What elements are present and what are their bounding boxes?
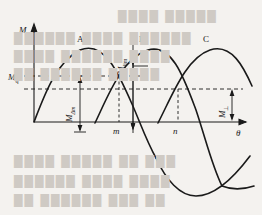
curve-b-lower-lobe [222, 186, 254, 189]
label-mperp: M⊥ [217, 106, 229, 120]
label-mperp-sub: ⊥ [223, 106, 229, 111]
y-axis-arrowhead [31, 24, 37, 32]
axis-marker-m: m [113, 126, 120, 136]
m-delta-m-arrowhead-down [78, 125, 83, 132]
bleed-text-7: ██ ██████ ███ ██ [14, 194, 166, 207]
x-axis-arrowhead [239, 119, 246, 125]
svg-text:M⊥: M⊥ [217, 106, 229, 120]
m-marker-arrowhead [131, 124, 135, 130]
curve-a [34, 48, 156, 158]
figure-canvas: ████ █████ ██████ ████ ██████ ████ █████… [0, 0, 262, 215]
x-axis-label: θ [236, 128, 241, 138]
label-mdeltam-sub: Δm [70, 106, 76, 116]
bleed-text-4: ██ ██████ █████ [14, 68, 161, 81]
label-mdeltam: MΔm [64, 106, 76, 123]
bleed-text-2: ██████ ████ ██████ [14, 32, 192, 45]
curve-label-c: C [203, 34, 209, 44]
m-perp-arrowhead-down [230, 114, 235, 121]
bleed-text-1: ████ █████ [118, 10, 218, 23]
bleed-text-3: ████ ██████ ████ [14, 50, 171, 63]
svg-text:MΔm: MΔm [64, 106, 76, 123]
axis-marker-n: n [173, 126, 178, 136]
bleed-text-5: ████ █████ ██ ███ [14, 155, 177, 168]
m-perp-arrowhead-up [230, 89, 235, 96]
bleed-text-6: ██████ ████ ████ [14, 175, 171, 188]
